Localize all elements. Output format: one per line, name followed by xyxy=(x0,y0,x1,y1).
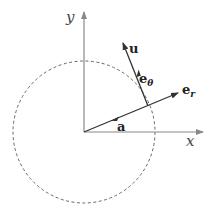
u-label: u xyxy=(129,41,138,56)
a-label: a xyxy=(117,119,126,134)
e-r-subscript: r xyxy=(190,89,196,99)
x-axis-label: x xyxy=(186,132,195,150)
e-theta-label: eθ xyxy=(139,71,153,88)
e-r-vector xyxy=(84,93,178,132)
polar-basis-diagram: y x u eθ er a xyxy=(0,0,210,211)
e-theta-subscript: θ xyxy=(147,78,153,88)
e-r-label: er xyxy=(182,82,196,99)
e-theta-base: e xyxy=(139,71,147,86)
e-r-base: e xyxy=(182,82,190,97)
y-axis-label: y xyxy=(65,8,75,26)
